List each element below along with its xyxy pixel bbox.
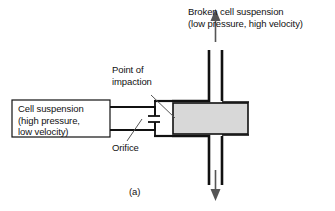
figure-homogenizer-diagram: Broken cell suspension(low pressure, hig… — [0, 0, 335, 211]
label-point-of-impaction-line2: impaction — [112, 76, 152, 87]
nozzle-wall-upper — [110, 107, 155, 116]
figure-caption: (a) — [129, 186, 140, 198]
impaction-block — [173, 103, 248, 134]
label-cell-suspension-line3: low velocity) — [18, 126, 68, 137]
label-cell-suspension-line2: (high pressure, — [18, 115, 80, 126]
arrow-down-icon — [211, 170, 221, 201]
label-point-of-impaction: Point ofimpaction — [112, 64, 152, 87]
label-broken-cell-suspension-line2: (low pressure, high velocity) — [188, 18, 303, 29]
nozzle-wall-lower — [110, 122, 155, 130]
label-orifice: Orifice — [112, 142, 139, 154]
label-broken-cell-suspension-line1: Broken cell suspension — [188, 6, 284, 17]
outlet-pipe-left-wall-upper — [172, 50, 209, 101]
label-point-of-impaction-line1: Point of — [112, 64, 143, 75]
label-cell-suspension: Cell suspension(high pressure,low veloci… — [18, 103, 84, 138]
outlet-pipe-left-wall-lower — [172, 136, 209, 185]
label-cell-suspension-line1: Cell suspension — [18, 103, 84, 114]
label-broken-cell-suspension: Broken cell suspension(low pressure, hig… — [188, 6, 303, 29]
